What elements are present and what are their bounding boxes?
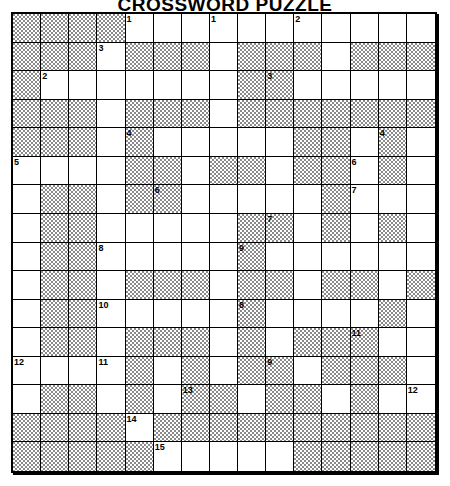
- grid-cell-open[interactable]: 8: [97, 243, 125, 272]
- grid-cell-open[interactable]: [13, 385, 41, 414]
- grid-cell-open[interactable]: [210, 442, 238, 471]
- grid-cell-open[interactable]: [13, 271, 41, 300]
- grid-cell-open[interactable]: [351, 300, 379, 329]
- grid-cell-open[interactable]: 7: [351, 185, 379, 214]
- grid-cell-open[interactable]: [13, 185, 41, 214]
- grid-cell-open[interactable]: [182, 300, 210, 329]
- grid-cell-open[interactable]: [351, 71, 379, 100]
- grid-cell-open[interactable]: [126, 214, 154, 243]
- grid-cell-open[interactable]: [154, 14, 182, 43]
- grid-cell-open[interactable]: [407, 357, 435, 386]
- grid-cell-open[interactable]: 1: [210, 14, 238, 43]
- grid-cell-open[interactable]: [238, 14, 266, 43]
- grid-cell-open[interactable]: [154, 214, 182, 243]
- grid-cell-open[interactable]: [210, 300, 238, 329]
- grid-cell-open[interactable]: [182, 71, 210, 100]
- grid-cell-open[interactable]: 2: [41, 71, 69, 100]
- grid-cell-open[interactable]: [294, 271, 322, 300]
- grid-cell-open[interactable]: [182, 128, 210, 157]
- grid-cell-open[interactable]: [182, 243, 210, 272]
- grid-cell-open[interactable]: 1: [126, 14, 154, 43]
- grid-cell-open[interactable]: [210, 214, 238, 243]
- grid-cell-open[interactable]: [154, 357, 182, 386]
- grid-cell-open[interactable]: [210, 71, 238, 100]
- grid-cell-open[interactable]: [266, 14, 294, 43]
- grid-cell-open[interactable]: 15: [154, 442, 182, 471]
- grid-cell-open[interactable]: [294, 71, 322, 100]
- grid-cell-open[interactable]: [379, 271, 407, 300]
- grid-cell-open[interactable]: [41, 357, 69, 386]
- grid-cell-open[interactable]: [407, 300, 435, 329]
- grid-cell-open[interactable]: [407, 14, 435, 43]
- grid-cell-open[interactable]: [407, 328, 435, 357]
- grid-cell-open[interactable]: [97, 328, 125, 357]
- grid-cell-open[interactable]: [97, 128, 125, 157]
- grid-cell-open[interactable]: 6: [351, 157, 379, 186]
- grid-cell-open[interactable]: [351, 214, 379, 243]
- grid-cell-open[interactable]: [41, 157, 69, 186]
- grid-cell-open[interactable]: [210, 185, 238, 214]
- grid-cell-open[interactable]: [126, 243, 154, 272]
- grid-cell-open[interactable]: [379, 71, 407, 100]
- grid-cell-open[interactable]: [210, 100, 238, 129]
- grid-cell-open[interactable]: [210, 271, 238, 300]
- grid-cell-open[interactable]: [322, 243, 350, 272]
- grid-cell-open[interactable]: [182, 214, 210, 243]
- grid-cell-open[interactable]: [97, 385, 125, 414]
- grid-cell-open[interactable]: [379, 328, 407, 357]
- grid-cell-open[interactable]: [351, 14, 379, 43]
- grid-cell-open[interactable]: [294, 185, 322, 214]
- grid-cell-open[interactable]: [266, 185, 294, 214]
- grid-cell-open[interactable]: [266, 300, 294, 329]
- grid-cell-open[interactable]: [210, 328, 238, 357]
- grid-cell-open[interactable]: [154, 385, 182, 414]
- grid-cell-open[interactable]: [407, 243, 435, 272]
- grid-cell-open[interactable]: [322, 71, 350, 100]
- grid-cell-open[interactable]: [182, 442, 210, 471]
- grid-cell-open[interactable]: [13, 214, 41, 243]
- grid-cell-open[interactable]: [407, 157, 435, 186]
- grid-cell-open[interactable]: 12: [13, 357, 41, 386]
- grid-cell-open[interactable]: [97, 157, 125, 186]
- grid-cell-open[interactable]: [13, 328, 41, 357]
- grid-cell-open[interactable]: [154, 71, 182, 100]
- grid-cell-open[interactable]: [210, 243, 238, 272]
- grid-cell-open[interactable]: [69, 157, 97, 186]
- grid-cell-open[interactable]: [379, 243, 407, 272]
- grid-cell-open[interactable]: [266, 328, 294, 357]
- grid-cell-open[interactable]: [294, 300, 322, 329]
- grid-cell-open[interactable]: [182, 14, 210, 43]
- grid-cell-open[interactable]: [97, 271, 125, 300]
- grid-cell-open[interactable]: [322, 43, 350, 72]
- grid-cell-open[interactable]: [210, 357, 238, 386]
- grid-cell-open[interactable]: [322, 385, 350, 414]
- grid-cell-open[interactable]: [351, 243, 379, 272]
- grid-cell-open[interactable]: [97, 214, 125, 243]
- grid-cell-open[interactable]: [407, 185, 435, 214]
- grid-cell-open[interactable]: [154, 128, 182, 157]
- grid-cell-open[interactable]: [294, 214, 322, 243]
- grid-cell-open[interactable]: [322, 300, 350, 329]
- grid-cell-open[interactable]: [407, 71, 435, 100]
- grid-cell-open[interactable]: [407, 128, 435, 157]
- grid-cell-open[interactable]: [69, 71, 97, 100]
- grid-cell-open[interactable]: [379, 14, 407, 43]
- grid-cell-open[interactable]: 3: [97, 43, 125, 72]
- grid-cell-open[interactable]: [266, 157, 294, 186]
- grid-cell-open[interactable]: [154, 243, 182, 272]
- grid-cell-open[interactable]: [13, 300, 41, 329]
- grid-cell-open[interactable]: [126, 71, 154, 100]
- grid-cell-open[interactable]: [266, 243, 294, 272]
- grid-cell-open[interactable]: [126, 300, 154, 329]
- grid-cell-open[interactable]: [210, 43, 238, 72]
- grid-cell-open[interactable]: [210, 128, 238, 157]
- grid-cell-open[interactable]: [154, 300, 182, 329]
- grid-cell-open[interactable]: [407, 214, 435, 243]
- grid-cell-open[interactable]: [69, 357, 97, 386]
- grid-cell-open[interactable]: 2: [294, 14, 322, 43]
- grid-cell-open[interactable]: 5: [13, 157, 41, 186]
- grid-cell-open[interactable]: 11: [97, 357, 125, 386]
- grid-cell-open[interactable]: [294, 357, 322, 386]
- grid-cell-open[interactable]: [379, 385, 407, 414]
- grid-cell-open[interactable]: [379, 185, 407, 214]
